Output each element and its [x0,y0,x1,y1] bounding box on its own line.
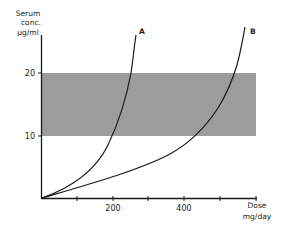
y-axis-label-line3: µg/ml [17,28,38,37]
y-axis-label-line2: conc. [21,18,41,27]
x-axis-label-line1: Dose [248,201,267,210]
x-axis-label-line2: mg/day [243,212,272,221]
curve-a-label: A [139,27,145,36]
therapeutic-range-band [42,73,256,136]
y-tick-label-10: 10 [25,132,35,141]
chart: Serum conc. µg/ml 20 10 200 400 Dose mg/… [0,0,281,229]
curve-b-label: B [250,27,256,36]
x-tick-label-200: 200 [105,204,120,213]
x-tick-label-400: 400 [176,204,191,213]
y-axis-label-line1: Serum [16,9,41,18]
y-tick-label-20: 20 [25,69,35,78]
